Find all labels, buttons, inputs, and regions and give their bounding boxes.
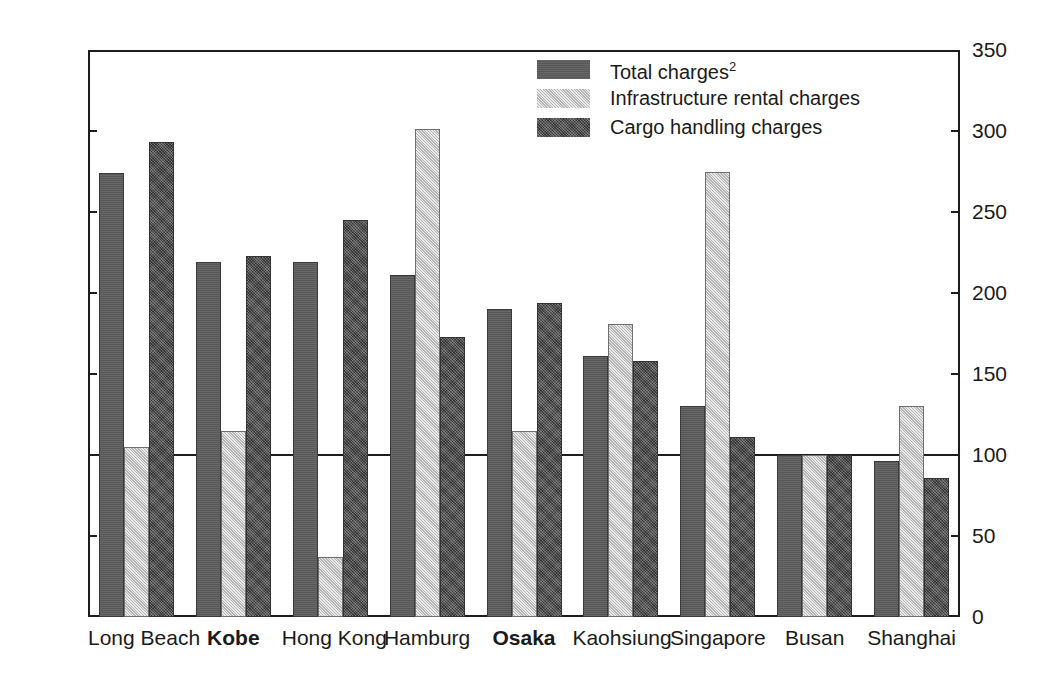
chart-legend: Total charges2Infrastructure rental char…: [537, 57, 860, 144]
y-tick-mark-left: [88, 292, 97, 294]
bar-total: [196, 262, 221, 617]
y-tick-label-right: 50: [972, 525, 995, 546]
bar-total: [680, 406, 705, 617]
bar-total: [293, 262, 318, 617]
y-tick-mark-right: [951, 130, 960, 132]
legend-item: Total charges2: [537, 57, 860, 81]
y-tick-mark-right: [951, 535, 960, 537]
y-tick-mark-left: [88, 373, 97, 375]
bar-total: [874, 461, 899, 617]
bar-cargo: [440, 337, 465, 617]
bar-total: [390, 275, 415, 617]
legend-label: Infrastructure rental charges: [610, 87, 860, 109]
category-label: Kaohsiung: [572, 626, 669, 649]
bar-cargo: [924, 478, 949, 617]
bar-chart: 050100150200250300350 050100150200250300…: [0, 0, 1055, 673]
y-tick-mark-left: [88, 535, 97, 537]
category-label: Busan: [766, 626, 863, 649]
bar-total: [583, 356, 608, 617]
legend-item: Infrastructure rental charges: [537, 86, 860, 110]
y-tick-mark-left: [88, 130, 97, 132]
bar-infrastructure: [899, 406, 924, 617]
y-tick-label-right: 200: [972, 282, 1007, 303]
category-label: Kobe: [185, 626, 282, 649]
bar-cargo: [827, 455, 852, 617]
bar-cargo: [343, 220, 368, 617]
infrastructure-swatch: [537, 89, 590, 108]
bar-cargo: [537, 303, 562, 617]
bar-infrastructure: [512, 431, 537, 617]
bar-infrastructure: [318, 557, 343, 617]
y-tick-mark-right: [951, 373, 960, 375]
y-tick-mark-left: [88, 211, 97, 213]
bar-infrastructure: [415, 129, 440, 617]
y-tick-label-right: 300: [972, 120, 1007, 141]
bar-cargo: [149, 142, 174, 617]
bar-infrastructure: [221, 431, 246, 617]
y-tick-mark-right: [951, 211, 960, 213]
category-label: Singapore: [669, 626, 766, 649]
bar-total: [99, 173, 124, 617]
bar-cargo: [246, 256, 271, 617]
total-swatch: [537, 60, 590, 79]
legend-label: Total charges2: [610, 56, 736, 83]
category-label: Osaka: [476, 626, 573, 649]
y-tick-label-right: 100: [972, 444, 1007, 465]
bar-infrastructure: [705, 172, 730, 618]
bar-cargo: [730, 437, 755, 617]
y-tick-label-right: 0: [972, 606, 984, 627]
legend-label: Cargo handling charges: [610, 116, 822, 138]
bar-total: [487, 309, 512, 617]
bar-infrastructure: [124, 447, 149, 617]
legend-item: Cargo handling charges: [537, 115, 860, 139]
y-tick-label-right: 350: [972, 39, 1007, 60]
category-label: Hamburg: [379, 626, 476, 649]
legend-footnote-marker: 2: [729, 59, 736, 74]
cargo-swatch: [537, 118, 590, 137]
bar-infrastructure: [608, 324, 633, 617]
category-label: Shanghai: [863, 626, 960, 649]
y-tick-label-right: 150: [972, 363, 1007, 384]
bar-infrastructure: [802, 455, 827, 617]
y-tick-label-right: 250: [972, 201, 1007, 222]
category-label: Hong Kong: [282, 626, 379, 649]
bar-total: [777, 455, 802, 617]
category-label: Long Beach: [88, 626, 185, 649]
y-tick-mark-right: [951, 292, 960, 294]
bar-cargo: [633, 361, 658, 617]
